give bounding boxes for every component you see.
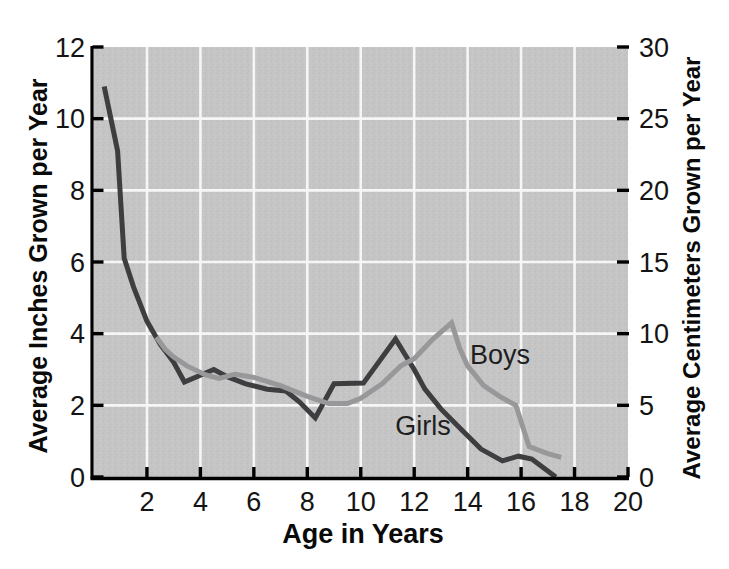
x-tick-label: 2 bbox=[139, 487, 154, 517]
y-right-tick-label: 20 bbox=[639, 176, 669, 206]
growth-velocity-chart: 2468101214161820024681012051015202530 Av… bbox=[0, 0, 729, 569]
x-tick-label: 18 bbox=[560, 487, 590, 517]
y-left-tick-label: 0 bbox=[70, 463, 85, 493]
y-right-tick-label: 10 bbox=[639, 319, 669, 349]
x-axis-title: Age in Years bbox=[282, 519, 444, 550]
y-left-tick-label: 2 bbox=[70, 391, 85, 421]
y-left-tick-label: 4 bbox=[70, 319, 85, 349]
right-axis-title: Average Centimeters Grown per Year bbox=[678, 57, 706, 480]
x-tick-label: 16 bbox=[506, 487, 536, 517]
x-tick-label: 14 bbox=[453, 487, 483, 517]
x-tick-label: 6 bbox=[246, 487, 261, 517]
x-tick-label: 4 bbox=[193, 487, 208, 517]
y-right-tick-label: 15 bbox=[639, 248, 669, 278]
y-right-tick-label: 25 bbox=[639, 104, 669, 134]
x-tick-label: 8 bbox=[300, 487, 315, 517]
y-left-tick-label: 8 bbox=[70, 176, 85, 206]
x-tick-label: 10 bbox=[346, 487, 376, 517]
y-right-tick-label: 0 bbox=[639, 463, 654, 493]
y-left-tick-label: 6 bbox=[70, 248, 85, 278]
y-right-tick-label: 30 bbox=[639, 33, 669, 63]
y-right-tick-label: 5 bbox=[639, 391, 654, 421]
chart-canvas: 2468101214161820024681012051015202530 bbox=[0, 0, 729, 569]
boys-series-label: Boys bbox=[470, 340, 530, 371]
x-tick-label: 12 bbox=[399, 487, 429, 517]
girls-series-label: Girls bbox=[395, 411, 451, 442]
y-left-tick-label: 10 bbox=[55, 104, 85, 134]
left-axis-title: Average Inches Grown per Year bbox=[24, 78, 53, 453]
y-left-tick-label: 12 bbox=[55, 33, 85, 63]
